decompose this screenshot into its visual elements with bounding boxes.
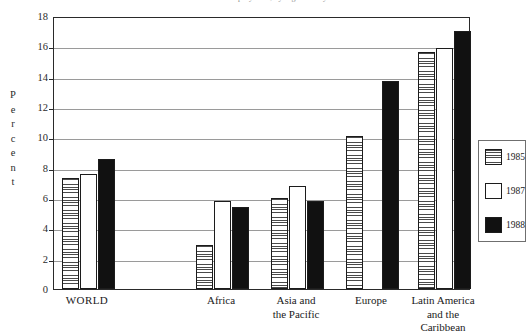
gridline: [54, 261, 469, 262]
category-label-line: Caribbean: [388, 321, 498, 335]
bar: [454, 31, 471, 289]
legend-swatch: [485, 183, 502, 199]
category-label-line: WORLD: [32, 294, 142, 308]
y-axis-tick-label: 6: [22, 194, 48, 204]
y-axis-tick-label: 4: [22, 224, 48, 234]
bar: [289, 186, 306, 289]
legend-label: 1987: [506, 186, 525, 196]
bar: [436, 48, 453, 289]
bar: [418, 52, 435, 289]
bar: [62, 178, 79, 289]
plot-area: [53, 17, 470, 290]
gridline: [54, 48, 469, 49]
y-axis-tickmark: [49, 261, 54, 262]
y-axis-tick-label: 16: [22, 42, 48, 52]
category-label-line: Latin America: [388, 294, 498, 308]
gridline: [54, 109, 469, 110]
y-axis-tickmark: [49, 200, 54, 201]
y-axis-tickmark: [49, 170, 54, 171]
legend-swatch: [485, 217, 502, 233]
gridline: [54, 200, 469, 201]
bar: [232, 207, 249, 289]
y-axis-tick-label: 12: [22, 103, 48, 113]
y-axis-tick-label: 2: [22, 255, 48, 265]
y-axis-tickmark: [49, 230, 54, 231]
y-axis-title-letter: e: [6, 146, 20, 161]
legend-swatch: [485, 149, 502, 165]
y-axis-tick-label: 8: [22, 164, 48, 174]
x-axis-category-label: WORLD: [32, 294, 142, 308]
y-axis-tickmark: [49, 109, 54, 110]
bar: [307, 201, 324, 289]
y-axis-tickmark: [49, 48, 54, 49]
bar: [80, 174, 97, 289]
legend-item[interactable]: 1988: [485, 217, 527, 235]
gridline: [54, 170, 469, 171]
y-axis-tickmark: [49, 79, 54, 80]
bar: [196, 245, 213, 289]
y-axis-title-letter: r: [6, 117, 20, 132]
x-axis-category-label: Latin Americaand theCaribbean: [388, 294, 498, 335]
bar: [271, 198, 288, 289]
category-label-line: the Pacific: [241, 308, 351, 322]
y-axis-title-letter: c: [6, 132, 20, 147]
category-label-line: and the: [388, 308, 498, 322]
gridline: [54, 230, 469, 231]
legend-item[interactable]: 1987: [485, 183, 527, 201]
gridline: [54, 79, 469, 80]
legend-item[interactable]: 1985: [485, 149, 527, 167]
chart-title: Chart: Unemployment, by region and year: [0, 0, 532, 2]
bar: [382, 81, 399, 289]
y-axis-title-letter: P: [6, 88, 20, 103]
y-axis-title-letter: e: [6, 103, 20, 118]
y-axis-title: P e r c e n t: [6, 88, 20, 190]
y-axis-title-letter: n: [6, 161, 20, 176]
legend: 198519871988: [478, 140, 526, 242]
y-axis-tick-label: 10: [22, 133, 48, 143]
gridline: [54, 139, 469, 140]
bar: [346, 136, 363, 289]
legend-label: 1985: [506, 152, 525, 162]
y-axis-title-letter: t: [6, 175, 20, 190]
legend-label: 1988: [506, 220, 525, 230]
y-axis-tick-labels: 181614121086420: [22, 0, 48, 335]
y-axis-tick-label: 18: [22, 12, 48, 22]
y-axis-tickmark: [49, 139, 54, 140]
y-axis-tick-label: 14: [22, 73, 48, 83]
bar: [214, 201, 231, 289]
bar: [98, 159, 115, 289]
